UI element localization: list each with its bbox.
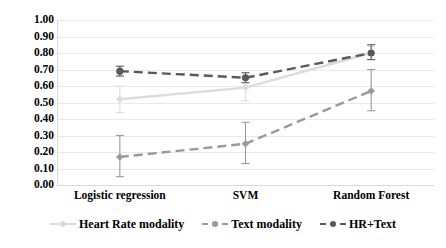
legend-label: Heart Rate modality [79, 217, 184, 232]
data-point-marker [368, 49, 375, 56]
data-point-marker [242, 140, 250, 148]
legend-item-text-modality[interactable]: Text modality [202, 217, 302, 232]
y-tick-label: 0.40 [4, 113, 54, 125]
legend-swatch-icon [202, 219, 228, 229]
data-point-marker [116, 68, 123, 75]
data-point-marker [242, 84, 250, 92]
legend-label: Text modality [231, 217, 302, 232]
y-tick-label: 0.60 [4, 80, 54, 92]
legend-marker-icon [330, 221, 336, 227]
y-tick-label: 0.90 [4, 31, 54, 43]
plot-area [57, 20, 434, 185]
x-tick-label: SVM [233, 189, 259, 201]
data-point-marker [367, 87, 375, 95]
y-tick-label: 0.00 [4, 179, 54, 191]
legend-swatch-icon [320, 219, 346, 229]
y-tick-label: 0.30 [4, 130, 54, 142]
x-axis-line [57, 185, 434, 186]
x-axis-tick-labels: Logistic regressionSVMRandom Forest [57, 189, 434, 207]
legend-marker-icon [60, 221, 66, 227]
x-tick-label: Logistic regression [74, 189, 166, 201]
data-point-marker [116, 95, 124, 103]
legend-marker-icon [212, 221, 218, 227]
chart-container: 0.000.100.200.300.400.500.600.700.800.90… [0, 0, 446, 248]
data-point-marker [116, 153, 124, 161]
legend-item-hr-text[interactable]: HR+Text [320, 217, 396, 232]
legend-item-heart-rate-modality[interactable]: Heart Rate modality [50, 217, 184, 232]
y-tick-label: 1.00 [4, 14, 54, 26]
chart-legend: Heart Rate modalityText modalityHR+Text [0, 212, 446, 236]
y-tick-label: 0.10 [4, 163, 54, 175]
legend-swatch-icon [50, 219, 76, 229]
x-tick-label: Random Forest [333, 189, 409, 201]
y-axis-tick-labels: 0.000.100.200.300.400.500.600.700.800.90… [0, 20, 54, 185]
y-tick-label: 0.70 [4, 64, 54, 76]
legend-label: HR+Text [349, 217, 396, 232]
y-tick-label: 0.80 [4, 47, 54, 59]
y-tick-label: 0.50 [4, 97, 54, 109]
y-tick-label: 0.20 [4, 146, 54, 158]
data-series-layer [57, 20, 434, 185]
data-point-marker [242, 74, 249, 81]
